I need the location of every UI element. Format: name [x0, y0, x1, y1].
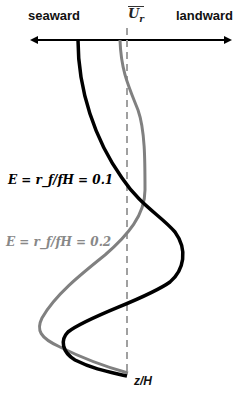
mean-velocity-subscript: r: [139, 14, 144, 24]
curve-e-0-2: [39, 40, 145, 373]
curve-1-label: E = r_f/fH = 0.1: [8, 173, 113, 187]
left-arrow-icon: [30, 36, 38, 44]
vertical-axis-label: z/H: [134, 374, 152, 388]
velocity-profile-diagram: [0, 0, 240, 394]
curve-e-0-1: [63, 40, 183, 376]
landward-label: landward: [176, 8, 233, 23]
curve-2-label: E = r_f/fH = 0.2: [6, 235, 111, 249]
mean-velocity-symbol: U: [128, 6, 139, 21]
horizontal-axis: [30, 36, 232, 44]
mean-velocity-label: Ur: [128, 6, 144, 26]
right-arrow-icon: [224, 36, 232, 44]
seaward-label: seaward: [28, 8, 80, 23]
